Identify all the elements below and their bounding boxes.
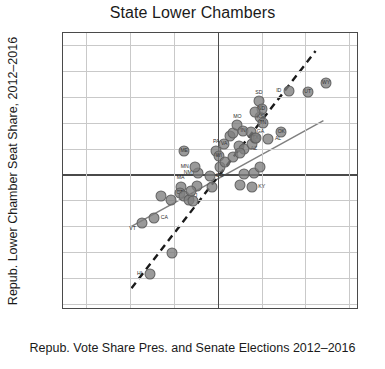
y-tick-label: .4 [62, 193, 63, 207]
x-tick-label: .4 [168, 308, 178, 309]
x-tick-label: .3 [125, 308, 135, 309]
x-tick-mark [349, 308, 350, 309]
scatter-point-mn [189, 162, 200, 173]
scatter-point-tn [257, 117, 268, 128]
gridline-horizontal [63, 97, 357, 98]
scatter-point-nc [235, 148, 246, 159]
gridline-horizontal [63, 278, 357, 279]
scatter-point-wy [321, 78, 332, 89]
gridline-vertical [86, 33, 87, 308]
y-tick-label: .6 [62, 142, 63, 156]
scatter-point-ky [246, 181, 257, 192]
y-tick-label: .9 [62, 64, 63, 78]
gridline-horizontal [63, 226, 357, 227]
x-axis-label: Repub. Vote Share Pres. and Senate Elect… [0, 341, 385, 355]
x-tick-label: .8 [344, 308, 354, 309]
x-tick-label: .7 [300, 308, 310, 309]
x-tick-mark [261, 308, 262, 309]
scatter-point-id [283, 85, 294, 96]
scatter-point-or [186, 186, 197, 197]
scatter-point-ok [276, 126, 287, 137]
x-tick-mark [85, 308, 86, 309]
scatter-point-ms [235, 179, 246, 190]
x-tick-mark [129, 308, 130, 309]
y-axis-label: Repub. Lower Chamber Seat Share, 2012–20… [4, 32, 22, 309]
gridline-vertical [174, 33, 175, 308]
scatter-point-vt [136, 217, 147, 228]
gridline-vertical [130, 33, 131, 308]
gridline-horizontal [63, 304, 357, 305]
scatter-point-me [179, 145, 190, 156]
x-tick-label: .2 [81, 308, 91, 309]
scatter-point-ut [302, 86, 313, 97]
y-tick-label: .8 [62, 90, 63, 104]
gridline-vertical [305, 33, 306, 308]
y-tick-label: .7 [62, 116, 63, 130]
scatter-point-wv [254, 161, 265, 172]
y-tick-label: .2 [62, 245, 63, 259]
scatter-point-ri [166, 247, 177, 258]
scatter-point-ne [249, 106, 260, 117]
y-tick-label: .5 [62, 167, 63, 181]
scatter-point-ny [166, 195, 177, 206]
y-tick-label: .3 [62, 219, 63, 233]
scatter-point-ak [251, 133, 262, 144]
gridline-horizontal [63, 252, 357, 253]
x-tick-label: .6 [256, 308, 266, 309]
y-axis-label-text: Repub. Lower Chamber Seat Share, 2012–20… [6, 36, 20, 304]
plot-area: 0.1.2.3.4.5.6.7.8.91.2.3.4.5.6.7.8HIVTCA… [62, 32, 358, 309]
scatter-point-co [204, 170, 215, 181]
y-tick-label: 0 [62, 297, 63, 309]
chart-root: State Lower Chambers Repub. Lower Chambe… [0, 0, 385, 369]
x-tick-mark [305, 308, 306, 309]
chart-title: State Lower Chambers [0, 4, 385, 22]
scatter-point-nv [206, 181, 217, 192]
y-tick-label: 1 [62, 38, 63, 52]
x-tick-label: .5 [212, 308, 222, 309]
gridline-horizontal [63, 123, 357, 124]
scatter-point-ca [149, 213, 160, 224]
x-tick-mark [217, 308, 218, 309]
scatter-point-de [187, 195, 198, 206]
gridline-horizontal [63, 200, 357, 201]
scatter-point-hi [144, 268, 155, 279]
gridline-horizontal [63, 71, 357, 72]
gridline-vertical [349, 33, 350, 308]
y-tick-label: .1 [62, 271, 63, 285]
scatter-point-al [263, 133, 274, 144]
x-tick-mark [173, 308, 174, 309]
gridline-horizontal [63, 45, 357, 46]
